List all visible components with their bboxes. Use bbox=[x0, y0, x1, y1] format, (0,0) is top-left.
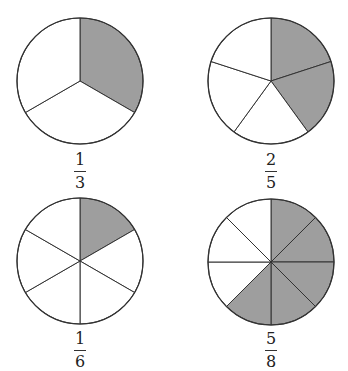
fraction-label-five-eighths: 5 8 bbox=[256, 331, 286, 370]
numerator: 1 bbox=[65, 331, 95, 347]
denominator: 6 bbox=[65, 354, 95, 370]
fraction-circle-five-eighths bbox=[208, 199, 334, 325]
fraction-circles-canvas bbox=[0, 0, 348, 371]
numerator: 1 bbox=[65, 152, 95, 168]
denominator: 5 bbox=[256, 175, 286, 191]
fraction-bar bbox=[265, 171, 277, 172]
fraction-circle-one-third bbox=[17, 18, 143, 144]
fraction-bar bbox=[265, 350, 277, 351]
fraction-bar bbox=[74, 350, 86, 351]
numerator: 2 bbox=[256, 152, 286, 168]
fraction-circle-one-sixth bbox=[17, 198, 143, 324]
denominator: 3 bbox=[65, 175, 95, 191]
fraction-label-two-fifths: 2 5 bbox=[256, 152, 286, 191]
denominator: 8 bbox=[256, 354, 286, 370]
numerator: 5 bbox=[256, 331, 286, 347]
fraction-label-one-third: 1 3 bbox=[65, 152, 95, 191]
fraction-circle-two-fifths bbox=[208, 18, 334, 144]
fraction-bar bbox=[74, 171, 86, 172]
fraction-label-one-sixth: 1 6 bbox=[65, 331, 95, 370]
